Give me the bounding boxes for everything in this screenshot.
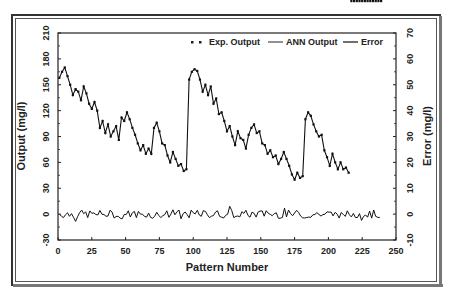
y-axis-left-label: Output (mg/l) [15, 101, 27, 170]
x-tick-label: 200 [321, 246, 336, 256]
y-axis-right-label: Error (mg/l) [421, 106, 433, 166]
y-left-tick-label: 210 [41, 25, 51, 40]
x-tick-label: 125 [219, 246, 234, 256]
y-right-tick-label: 0 [405, 212, 415, 217]
x-tick-label: 150 [253, 246, 268, 256]
axis-tick-labels: 0255075100125150175200225250-30030609012… [41, 25, 415, 256]
figure-caption-cropped [12, 293, 402, 299]
y-left-tick-label: 180 [41, 51, 51, 66]
y-right-tick-label: 30 [405, 131, 415, 141]
legend-label-exp-output: Exp. Output [209, 37, 260, 47]
x-tick-label: 100 [186, 246, 201, 256]
y-right-tick-label: 10 [405, 183, 415, 193]
y-right-tick-label: 60 [405, 54, 415, 64]
x-tick-label: 175 [287, 246, 302, 256]
x-tick-label: 225 [355, 246, 370, 256]
legend-marker-exp-1 [191, 41, 194, 44]
y-right-tick-label: 70 [405, 28, 415, 38]
x-tick-label: 0 [55, 246, 60, 256]
legend-label-error: Error [361, 37, 384, 47]
x-tick-label: 75 [154, 246, 164, 256]
legend-marker-exp-2 [199, 41, 202, 44]
y-right-tick-label: 40 [405, 106, 415, 116]
y-left-tick-label: 90 [41, 131, 51, 141]
chart-canvas: 0255075100125150175200225250-30030609012… [0, 0, 453, 299]
y-left-tick-label: 60 [41, 157, 51, 167]
x-tick-label: 250 [388, 246, 403, 256]
y-left-tick-label: 30 [41, 183, 51, 193]
output-series [58, 0, 382, 181]
legend-label-ann-output: ANN Output [286, 37, 338, 47]
y-left-tick-label: 150 [41, 77, 51, 92]
axis-ticks [58, 33, 396, 240]
plot-area [58, 33, 396, 240]
y-left-tick-label: 0 [41, 212, 51, 217]
error-series [59, 206, 379, 221]
y-right-tick-label: -10 [405, 233, 415, 246]
x-axis-label: Pattern Number [186, 261, 269, 273]
legend: Exp. Output ANN Output Error [191, 37, 384, 47]
y-left-tick-label: -30 [41, 233, 51, 246]
y-left-tick-label: 120 [41, 103, 51, 118]
y-right-tick-label: 50 [405, 80, 415, 90]
y-right-tick-label: 20 [405, 157, 415, 167]
x-tick-label: 25 [87, 246, 97, 256]
x-tick-label: 50 [121, 246, 131, 256]
